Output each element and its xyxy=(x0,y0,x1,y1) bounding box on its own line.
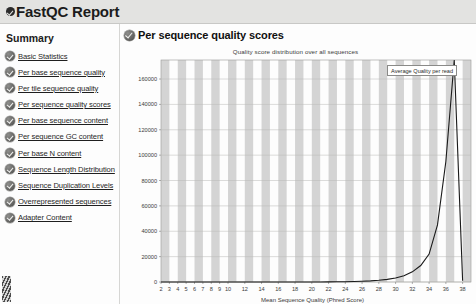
svg-text:36: 36 xyxy=(443,286,449,292)
svg-text:9: 9 xyxy=(218,286,221,292)
sidebar-item-per-tile-sequence-quality[interactable]: Per tile sequence quality xyxy=(5,82,115,94)
x-axis-ticks: 23456789101214161820222426283032343638 xyxy=(159,282,465,292)
svg-text:24: 24 xyxy=(342,286,348,292)
svg-text:8: 8 xyxy=(210,286,213,292)
sidebar-item-basic-statistics[interactable]: Basic Statistics xyxy=(5,50,115,62)
svg-text:5: 5 xyxy=(185,286,188,292)
sidebar-heading: Summary xyxy=(5,32,115,44)
x-axis-label: Mean Sequence Quality (Phred Score) xyxy=(155,297,470,303)
sidebar-item-adapter-content[interactable]: Adapter Content xyxy=(5,212,115,224)
svg-text:18: 18 xyxy=(292,286,298,292)
fastqc-tick-logo-icon xyxy=(6,7,15,16)
svg-text:100000: 100000 xyxy=(138,152,157,158)
chart-legend: Average Quality per read xyxy=(387,65,457,76)
svg-text:12: 12 xyxy=(242,286,248,292)
svg-text:22: 22 xyxy=(325,286,331,292)
module-header: Per sequence quality scores xyxy=(121,24,476,41)
pass-tick-icon xyxy=(124,30,135,41)
pass-tick-icon xyxy=(5,164,15,174)
sidebar-item-label[interactable]: Per tile sequence quality xyxy=(18,84,98,93)
page-title: FastQC Report xyxy=(16,4,119,19)
svg-text:32: 32 xyxy=(409,286,415,292)
svg-text:2: 2 xyxy=(159,286,162,292)
svg-text:14: 14 xyxy=(258,286,264,292)
svg-text:160000: 160000 xyxy=(138,76,157,82)
main-content: Per sequence quality scores Quality scor… xyxy=(121,24,476,304)
alternating-bands xyxy=(161,60,471,282)
svg-text:140000: 140000 xyxy=(138,101,157,107)
svg-text:4: 4 xyxy=(176,286,179,292)
svg-text:40000: 40000 xyxy=(141,228,157,234)
svg-text:20: 20 xyxy=(309,286,315,292)
legend-label: Average Quality per read xyxy=(391,68,453,74)
sidebar-item-label[interactable]: Per base sequence quality xyxy=(18,68,105,77)
pass-tick-icon xyxy=(5,100,15,110)
sidebar-item-sequence-length-distribution[interactable]: Sequence Length Distribution xyxy=(5,163,115,175)
sidebar-item-label[interactable]: Per base N content xyxy=(18,149,81,158)
svg-text:34: 34 xyxy=(426,286,432,292)
sidebar-item-overrepresented-sequences[interactable]: Overrepresented sequences xyxy=(5,196,115,208)
pass-tick-icon xyxy=(5,116,15,126)
svg-text:7: 7 xyxy=(201,286,204,292)
svg-text:0: 0 xyxy=(154,279,157,285)
svg-text:60000: 60000 xyxy=(141,203,157,209)
svg-text:28: 28 xyxy=(376,286,382,292)
module-title: Per sequence quality scores xyxy=(138,29,284,41)
fastqc-report-page: FastQC Report Summary Basic Statistics P… xyxy=(0,0,476,304)
pass-tick-icon xyxy=(5,51,15,61)
pass-tick-icon xyxy=(5,67,15,77)
chart-plot-area: 0200004000060000800001000001200001400001… xyxy=(121,46,476,304)
sidebar-item-label[interactable]: Basic Statistics xyxy=(18,52,67,61)
y-axis-ticks: 0200004000060000800001000001200001400001… xyxy=(138,76,161,285)
sidebar-item-label[interactable]: Adapter Content xyxy=(18,213,72,222)
sidebar: Summary Basic Statistics Per base sequen… xyxy=(0,24,120,304)
svg-text:10: 10 xyxy=(225,286,231,292)
sidebar-item-per-base-sequence-quality[interactable]: Per base sequence quality xyxy=(5,66,115,78)
svg-text:20000: 20000 xyxy=(141,254,157,260)
svg-text:30: 30 xyxy=(392,286,398,292)
pass-tick-icon xyxy=(5,197,15,207)
svg-text:26: 26 xyxy=(359,286,365,292)
quality-score-chart: Quality score distribution over all sequ… xyxy=(121,46,476,304)
sidebar-item-label[interactable]: Overrepresented sequences xyxy=(18,197,111,206)
sidebar-item-per-sequence-gc-content[interactable]: Per sequence GC content xyxy=(5,131,115,143)
pass-tick-icon xyxy=(5,148,15,158)
pass-tick-icon xyxy=(5,83,15,93)
pass-tick-icon xyxy=(5,181,15,191)
app-header: FastQC Report xyxy=(0,0,476,24)
sidebar-item-label[interactable]: Per base sequence content xyxy=(18,116,108,125)
svg-text:3: 3 xyxy=(168,286,171,292)
sidebar-item-per-sequence-quality-scores[interactable]: Per sequence quality scores xyxy=(5,99,115,111)
sidebar-item-label[interactable]: Per sequence GC content xyxy=(18,132,103,141)
svg-text:38: 38 xyxy=(460,286,466,292)
svg-text:80000: 80000 xyxy=(141,178,157,184)
sidebar-item-per-base-n-content[interactable]: Per base N content xyxy=(5,147,115,159)
sidebar-item-label[interactable]: Sequence Duplication Levels xyxy=(18,181,113,190)
sidebar-item-per-base-sequence-content[interactable]: Per base sequence content xyxy=(5,115,115,127)
sidebar-item-label[interactable]: Sequence Length Distribution xyxy=(18,165,115,174)
svg-text:6: 6 xyxy=(193,286,196,292)
sidebar-item-sequence-duplication-levels[interactable]: Sequence Duplication Levels xyxy=(5,180,115,192)
svg-text:120000: 120000 xyxy=(138,127,157,133)
svg-text:16: 16 xyxy=(275,286,281,292)
scan-artifact xyxy=(2,276,11,302)
sidebar-item-label[interactable]: Per sequence quality scores xyxy=(18,100,111,109)
pass-tick-icon xyxy=(5,213,15,223)
pass-tick-icon xyxy=(5,132,15,142)
